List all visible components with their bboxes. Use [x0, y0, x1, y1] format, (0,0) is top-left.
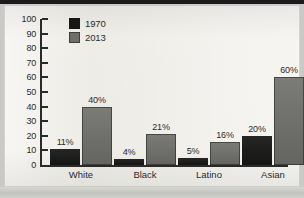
y-tick-label: 40 — [26, 102, 36, 112]
y-tick-label: 30 — [26, 116, 36, 126]
bar-white-1970[interactable]: 11% — [50, 149, 80, 165]
x-category-label-black: Black — [114, 169, 176, 180]
bar-value-label: 16% — [216, 130, 233, 140]
y-tick-label: 60 — [26, 72, 36, 82]
y-tick-label: 70 — [26, 58, 36, 68]
y-tick-label: 90 — [26, 29, 36, 39]
bar-value-label: 60% — [280, 65, 297, 75]
x-category-label-white: White — [50, 169, 112, 180]
bar-value-label: 4% — [123, 147, 136, 157]
bar-white-2013[interactable]: 40% — [82, 107, 112, 165]
x-axis-line — [40, 165, 288, 167]
x-category-label-latino: Latino — [178, 169, 240, 180]
chart-screenshot: 1970 2013 100 90 80 — [0, 0, 304, 198]
y-tick-label: 80 — [26, 43, 36, 53]
y-tick-mark — [42, 135, 48, 137]
bar-group-white: 11% 40% White — [50, 19, 112, 165]
y-tick-mark — [42, 91, 48, 93]
plot-area: 100 90 80 70 60 50 — [40, 19, 288, 167]
bar-group-latino: 5% 16% Latino — [178, 19, 240, 165]
y-tick-mark — [42, 120, 48, 122]
y-tick-mark — [42, 106, 48, 108]
bar-asian-2013[interactable]: 60% — [274, 77, 304, 165]
bar-latino-1970[interactable]: 5% — [178, 158, 208, 165]
chart-panel: 1970 2013 100 90 80 — [4, 5, 300, 187]
top-rule-divider — [0, 0, 304, 4]
bar-latino-2013[interactable]: 16% — [210, 142, 240, 165]
y-tick-mark — [42, 33, 48, 35]
bar-group-asian: 20% 60% Asian — [242, 19, 304, 165]
bar-value-label: 20% — [248, 124, 265, 134]
bar-value-label: 11% — [57, 137, 74, 147]
y-tick-mark — [42, 76, 48, 78]
y-tick-label: 10 — [26, 145, 36, 155]
bar-asian-1970[interactable]: 20% — [242, 136, 272, 165]
y-tick-mark — [42, 18, 48, 20]
bar-value-label: 5% — [187, 146, 200, 156]
y-tick-mark — [42, 149, 48, 151]
y-tick-mark — [42, 47, 48, 49]
page-bottom-edge — [0, 187, 304, 198]
bar-value-label: 40% — [88, 95, 105, 105]
bar-black-1970[interactable]: 4% — [114, 159, 144, 165]
y-tick-label: 100 — [22, 14, 36, 24]
bar-group-black: 4% 21% Black — [114, 19, 176, 165]
y-axis-line — [40, 19, 42, 167]
bar-black-2013[interactable]: 21% — [146, 134, 176, 165]
y-tick-label: 50 — [26, 87, 36, 97]
y-tick-mark — [42, 62, 48, 64]
bar-value-label: 21% — [152, 122, 169, 132]
y-tick-label: 20 — [26, 131, 36, 141]
x-category-label-asian: Asian — [242, 169, 304, 180]
y-tick-label: 0 — [31, 160, 36, 170]
